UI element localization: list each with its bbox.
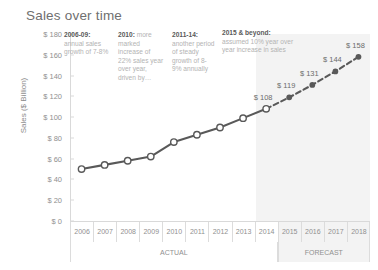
actual-data-point	[240, 115, 246, 121]
actual-data-point	[78, 166, 84, 172]
annotation-body: more marked increase of 22% sales year o…	[118, 31, 163, 81]
x-axis-tick-label: 2012	[208, 222, 231, 242]
annotation-lead: 2011-14:	[172, 31, 198, 38]
annotation-lead: 2010:	[118, 31, 135, 38]
x-axis-band: 2006200720082009201020112012201320142015…	[70, 222, 370, 262]
x-axis-tick-label: 2014	[255, 222, 278, 242]
annotation-lead: 2006-09:	[64, 31, 90, 38]
x-axis-tick-label: 2010	[162, 222, 185, 242]
actual-data-point	[101, 162, 107, 168]
data-point-label: $ 119	[277, 81, 295, 90]
data-point-label: $ 131	[300, 69, 319, 78]
x-axis-tick-label: 2008	[116, 222, 139, 242]
x-axis-group-label: FORECAST	[278, 242, 370, 262]
actual-data-point	[148, 153, 154, 159]
x-axis-tick-label: 2016	[301, 222, 324, 242]
chart-annotation: 2006-09: annual sales growth of 7-8%	[64, 31, 110, 57]
actual-data-point	[263, 106, 269, 112]
actual-data-point	[217, 124, 223, 130]
forecast-data-point	[286, 94, 292, 100]
x-axis-end-divider	[369, 222, 370, 242]
x-axis-group-label: ACTUAL	[70, 242, 278, 262]
chart-annotation: 2011-14: another period of steady growth…	[172, 31, 216, 74]
actual-data-point	[194, 132, 200, 138]
annotation-body: another period of steady growth of 8-9% …	[172, 40, 215, 73]
x-axis-tick-label: 2009	[139, 222, 162, 242]
data-point-label: $ 158	[346, 41, 365, 50]
actual-data-point	[124, 158, 130, 164]
forecast-data-point	[309, 82, 315, 88]
annotation-body: annual sales growth of 7-8%	[64, 40, 108, 56]
annotation-body: assumed 10% year over year increase in s…	[222, 38, 293, 54]
data-point-label: $ 144	[323, 55, 342, 64]
actual-data-point	[171, 139, 177, 145]
x-axis-tick-label: 2007	[93, 222, 116, 242]
x-axis-tick-label: 2018	[347, 222, 370, 242]
chart-annotation: 2015 & beyond: assumed 10% year over yea…	[222, 29, 296, 55]
actual-series-markers	[78, 106, 269, 173]
x-axis-tick-label: 2015	[278, 222, 301, 242]
data-point-label: $ 108	[254, 93, 273, 102]
x-axis-tick-label: 2006	[70, 222, 93, 242]
forecast-data-point	[332, 69, 338, 75]
chart-container: Sales over time Sales ($ Billion) $ 180$…	[0, 0, 378, 270]
x-axis-tick-label: 2013	[232, 222, 255, 242]
x-axis-tick-label: 2017	[324, 222, 347, 242]
chart-annotation: 2010: more marked increase of 22% sales …	[118, 31, 164, 83]
forecast-data-point	[356, 54, 362, 60]
x-axis-tick-label: 2011	[185, 222, 208, 242]
annotation-lead: 2015 & beyond:	[222, 29, 271, 36]
